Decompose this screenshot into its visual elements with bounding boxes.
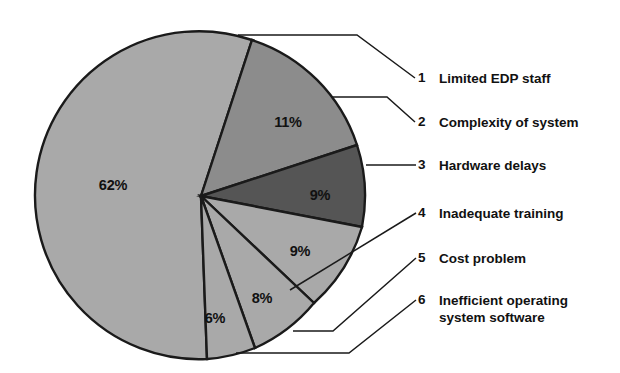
legend-number-6: 6 [418, 292, 432, 307]
legend-number-1: 1 [418, 70, 432, 85]
legend-label-5: Cost problem [439, 250, 526, 267]
legend-item-limited-edp-staff[interactable]: 1 Limited EDP staff [418, 70, 551, 87]
legend-label-2: Complexity of system [439, 114, 579, 131]
legend: 1 Limited EDP staff 2 Complexity of syst… [0, 0, 620, 373]
legend-item-inefficient-operating-system-software[interactable]: 6 Inefficient operating system software [418, 292, 568, 326]
pie-chart-figure: 62% 11% 9% 9% 8% 6% 1 Limited EDP staff … [0, 0, 620, 373]
legend-item-cost-problem[interactable]: 5 Cost problem [418, 250, 526, 267]
legend-label-3: Hardware delays [439, 157, 546, 174]
legend-item-complexity-of-system[interactable]: 2 Complexity of system [418, 114, 579, 131]
legend-number-3: 3 [418, 157, 432, 172]
legend-number-5: 5 [418, 250, 432, 265]
legend-item-inadequate-training[interactable]: 4 Inadequate training [418, 205, 564, 222]
legend-label-1: Limited EDP staff [439, 70, 551, 87]
legend-label-6: Inefficient operating system software [439, 292, 568, 326]
legend-number-4: 4 [418, 205, 432, 220]
legend-label-4: Inadequate training [439, 205, 564, 222]
legend-item-hardware-delays[interactable]: 3 Hardware delays [418, 157, 546, 174]
legend-number-2: 2 [418, 114, 432, 129]
